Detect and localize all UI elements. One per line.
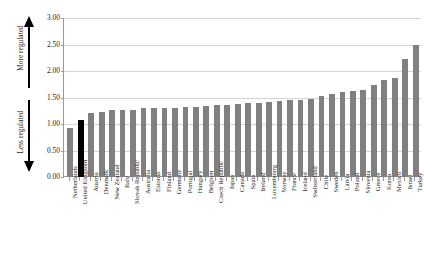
x-axis-label-slot: Ireland <box>252 182 262 255</box>
bar <box>256 103 262 177</box>
x-axis-label-slot: Germany <box>169 182 179 255</box>
bar-slot <box>149 18 159 177</box>
bar-slot <box>180 18 190 177</box>
more-regulated-annotation: More regulated <box>0 16 38 94</box>
y-axis-tick-label: 1.50 <box>34 94 60 101</box>
x-axis-label-slot: France <box>284 182 294 255</box>
bar-slot <box>410 18 420 177</box>
bar <box>224 105 230 177</box>
x-axis-label-slot: Finland <box>158 182 168 255</box>
x-axis-label-slot: Greece <box>368 182 378 255</box>
bar-slot <box>117 18 127 177</box>
bar-slot <box>390 18 400 177</box>
bar <box>360 90 366 177</box>
x-axis-label-slot: Korea <box>378 182 388 255</box>
bar-slot <box>96 18 106 177</box>
x-axis-label-slot: Hungary <box>190 182 200 255</box>
plot-area <box>63 18 420 177</box>
bar-slot <box>400 18 410 177</box>
bar <box>235 104 241 177</box>
bar-slot <box>348 18 358 177</box>
y-axis-tick-label: 2.50 <box>34 41 60 48</box>
bar-slot <box>316 18 326 177</box>
y-axis-tick-label: 0.50 <box>34 147 60 154</box>
x-axis-category-label: Turkey <box>417 173 424 192</box>
bar <box>203 106 209 177</box>
bar <box>99 112 105 177</box>
bar <box>329 94 335 177</box>
bar <box>381 80 387 177</box>
x-axis-label-slot: Italy <box>116 182 126 255</box>
bar <box>277 101 283 177</box>
bar <box>88 113 94 177</box>
bar-slot <box>327 18 337 177</box>
bar <box>172 108 178 177</box>
x-axis-label-slot: Iceland <box>294 182 304 255</box>
bar-slot <box>107 18 117 177</box>
y-axis-tick-label: 0.00 <box>34 173 60 180</box>
bar-slot <box>138 18 148 177</box>
x-axis-label-slot: Switzerland <box>305 182 315 255</box>
bar <box>141 108 147 177</box>
bar-slot <box>159 18 169 177</box>
y-axis-tick-label: 1.00 <box>34 120 60 127</box>
bar-slot <box>264 18 274 177</box>
bar <box>413 45 419 178</box>
arrow-up-icon <box>24 16 34 88</box>
bar-slot <box>369 18 379 177</box>
bar-slot <box>243 18 253 177</box>
y-axis-tick-labels: 3.002.502.001.501.000.500.00 <box>34 0 60 255</box>
x-axis-label-slot: Austria <box>85 182 95 255</box>
x-axis-category-labels: NetherlandsUnited KingdomAustriaDenmarkN… <box>64 182 420 255</box>
less-regulated-annotation: Less regulated <box>0 100 38 178</box>
bar <box>340 92 346 177</box>
x-axis-label-slot: Slovenia <box>357 182 367 255</box>
bar-slot <box>191 18 201 177</box>
bar-slot <box>222 18 232 177</box>
bar <box>350 91 356 177</box>
bar <box>298 100 304 177</box>
bar <box>193 107 199 177</box>
x-axis-label-slot: Estonia <box>148 182 158 255</box>
x-axis-label-slot: Israel <box>399 182 409 255</box>
y-axis-tick-mark <box>61 71 64 72</box>
x-axis-label-slot: Luxembourg <box>263 182 273 255</box>
x-axis-label-slot: Netherlands <box>64 182 74 255</box>
x-axis-label-slot: New Zealand <box>106 182 116 255</box>
bar <box>162 108 168 177</box>
bar <box>245 103 251 177</box>
y-axis-tick-mark <box>61 98 64 99</box>
bar <box>402 59 408 177</box>
bar-slot <box>75 18 85 177</box>
bar-slot <box>285 18 295 177</box>
axis-direction-annotations: More regulated Less regulated <box>0 14 38 179</box>
bar-slot <box>306 18 316 177</box>
x-axis-label-slot: Australia <box>137 182 147 255</box>
x-axis-label-slot: Latvia <box>336 182 346 255</box>
x-axis-label-slot: United Kingdom <box>74 182 84 255</box>
bar-slot <box>295 18 305 177</box>
bar-series <box>65 18 421 177</box>
bar-slot <box>128 18 138 177</box>
bar-slot <box>253 18 263 177</box>
bar-slot <box>337 18 347 177</box>
bar-slot <box>379 18 389 177</box>
x-axis-label-slot: Belgium <box>200 182 210 255</box>
x-axis-label-slot: Sweden <box>326 182 336 255</box>
x-axis-label-slot: Japan <box>221 182 231 255</box>
bar <box>319 96 325 177</box>
bar-slot <box>274 18 284 177</box>
y-axis-tick-label: 3.00 <box>34 14 60 21</box>
bar <box>151 108 157 177</box>
x-axis-label-slot: Slovak Republic <box>127 182 137 255</box>
x-axis-label-slot: Chile <box>315 182 325 255</box>
bar-slot <box>233 18 243 177</box>
x-axis-label-slot: Spain <box>242 182 252 255</box>
bar-slot <box>212 18 222 177</box>
y-axis-tick-mark <box>61 124 64 125</box>
bar-slot <box>86 18 96 177</box>
bar <box>392 78 398 177</box>
bar-slot <box>170 18 180 177</box>
y-axis-tick-mark <box>61 151 64 152</box>
